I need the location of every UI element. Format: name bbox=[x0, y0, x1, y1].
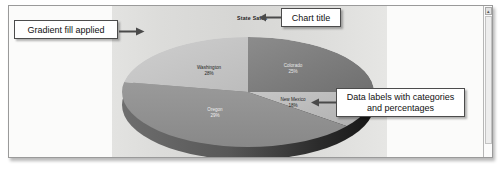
data-label-washington: Washington 28% bbox=[178, 65, 240, 77]
annotation-data-labels: Data labels with categories and percenta… bbox=[336, 88, 465, 117]
data-label-washington-percent: 28% bbox=[178, 71, 240, 77]
data-label-colorado: Colorado 25% bbox=[262, 63, 324, 75]
scrollbar-thumb[interactable] bbox=[485, 16, 492, 144]
data-label-oregon-percent: 29% bbox=[184, 113, 246, 119]
annotation-arrow-left-icon bbox=[259, 13, 282, 22]
data-label-colorado-category: Colorado bbox=[284, 63, 303, 68]
annotation-gradient-fill: Gradient fill applied bbox=[14, 20, 118, 39]
data-label-oregon: Oregon 29% bbox=[184, 107, 246, 119]
annotation-chart-title: Chart title bbox=[281, 8, 341, 27]
scroll-up-arrow-icon[interactable]: ▴ bbox=[485, 7, 492, 15]
annotation-arrow-right-icon bbox=[119, 27, 145, 36]
figure-root: State Sales bbox=[0, 0, 500, 170]
data-label-oregon-category: Oregon bbox=[207, 107, 222, 112]
vertical-scrollbar[interactable]: ▴ bbox=[483, 6, 492, 157]
data-label-washington-category: Washington bbox=[197, 65, 221, 70]
data-label-new-mexico-category: New Mexico bbox=[280, 97, 305, 102]
data-label-colorado-percent: 25% bbox=[262, 69, 324, 75]
annotation-arrow-left-icon-2 bbox=[311, 98, 337, 107]
